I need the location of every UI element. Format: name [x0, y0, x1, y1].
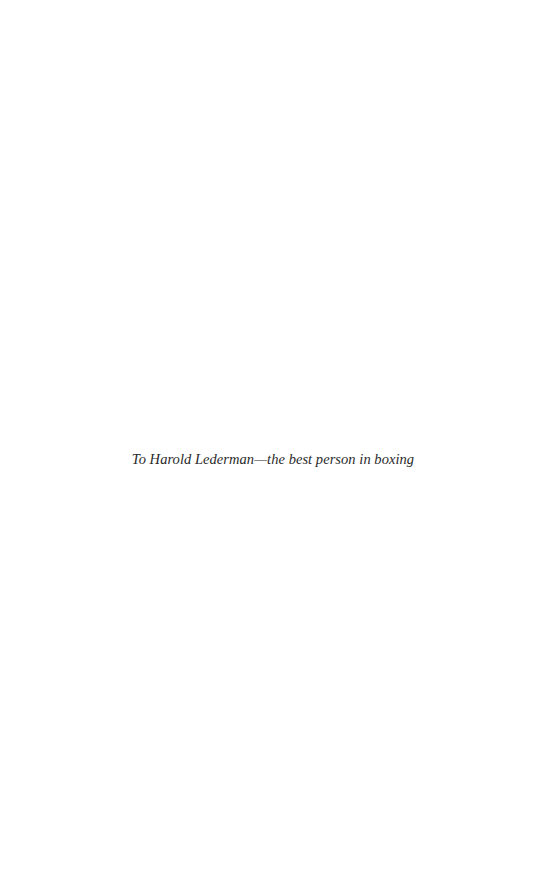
- book-page: To Harold Lederman—the best person in bo…: [0, 0, 546, 886]
- dedication-text: To Harold Lederman—the best person in bo…: [0, 451, 546, 468]
